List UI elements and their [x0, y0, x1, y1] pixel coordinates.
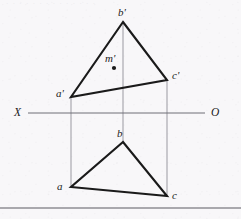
- point-m-prime-dot: [112, 66, 116, 70]
- axis-label-o: O: [211, 107, 219, 119]
- point-label-m-prime: m': [105, 53, 115, 64]
- vertex-label-b: b: [117, 128, 123, 139]
- vertex-label-a-prime: a': [56, 88, 64, 99]
- frontal-projection-triangle: [71, 22, 167, 97]
- vertex-label-c: c: [172, 190, 177, 201]
- projector-lines-group: [71, 22, 167, 196]
- geometry-figure-root: · · · · · · · · · · · · · · X O b' c' a'…: [0, 0, 241, 219]
- projection-diagram-svg: [0, 0, 241, 219]
- vertex-label-b-prime: b': [118, 7, 126, 18]
- vertex-label-a: a: [57, 181, 63, 192]
- axis-label-x: X: [14, 107, 21, 119]
- vertex-label-c-prime: c': [172, 70, 179, 81]
- horizontal-projection-triangle: [71, 142, 167, 196]
